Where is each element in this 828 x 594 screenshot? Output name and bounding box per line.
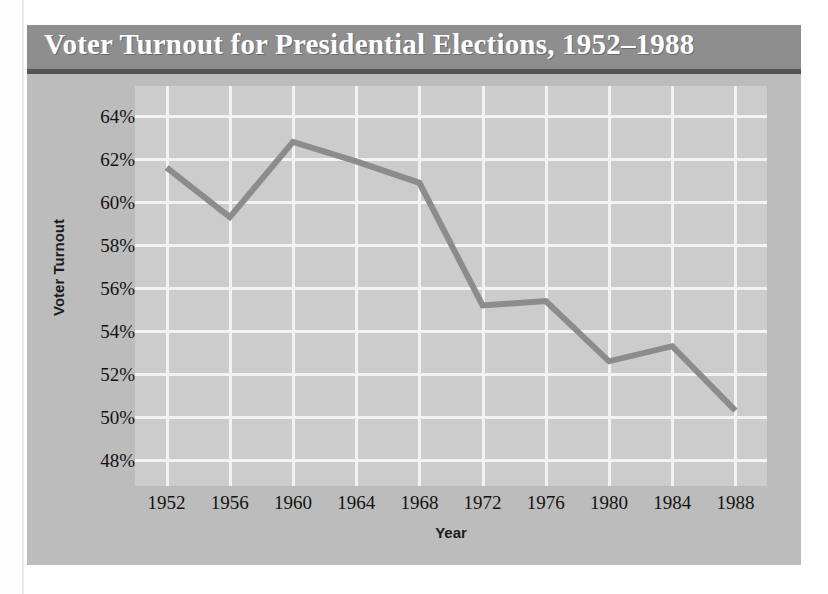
x-axis-tick-label: 1972 (448, 492, 518, 514)
x-axis-tick-label: 1952 (132, 492, 202, 514)
y-axis-tick-label: 60% (71, 193, 135, 212)
x-axis-tick-label: 1980 (574, 492, 644, 514)
x-axis-tick-label: 1960 (258, 492, 328, 514)
y-axis-ticks: 64%62%60%58%56%54%52%50%48% (63, 74, 135, 565)
data-line-series (135, 86, 767, 486)
y-axis-tick-label: 50% (71, 408, 135, 427)
x-axis-tick-label: 1988 (700, 492, 770, 514)
plot-area (135, 86, 767, 486)
x-axis-title: Year (135, 524, 767, 541)
chart-panel: Voter Turnout for Presidential Elections… (27, 25, 801, 565)
x-axis-tick-label: 1964 (321, 492, 391, 514)
y-axis-tick-label: 48% (71, 451, 135, 470)
y-axis-tick-label: 64% (71, 107, 135, 126)
x-axis-tick-label: 1984 (637, 492, 707, 514)
y-axis-tick-label: 54% (71, 322, 135, 341)
x-axis-tick-label: 1968 (384, 492, 454, 514)
x-axis-tick-label: 1956 (195, 492, 265, 514)
chart-title: Voter Turnout for Presidential Elections… (44, 28, 694, 61)
figure-root: Voter Turnout for Presidential Elections… (0, 0, 828, 594)
page-margin (0, 0, 22, 594)
chart-title-bar: Voter Turnout for Presidential Elections… (27, 25, 801, 74)
chart-body: Voter Turnout 64%62%60%58%56%54%52%50%48… (27, 74, 801, 565)
page-edge-rule (22, 0, 24, 594)
y-axis-tick-label: 58% (71, 236, 135, 255)
y-axis-tick-label: 62% (71, 150, 135, 169)
x-axis-ticks: 1952195619601964196819721976198019841988 (135, 492, 767, 518)
y-axis-tick-label: 56% (71, 279, 135, 298)
y-axis-tick-label: 52% (71, 365, 135, 384)
x-axis-tick-label: 1976 (511, 492, 581, 514)
